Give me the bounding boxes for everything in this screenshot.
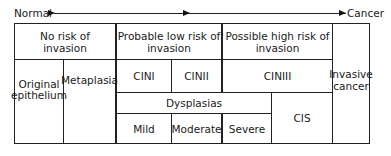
header-probable-low-risk: Probable low risk of invasion (117, 24, 221, 59)
arrowhead-icon (183, 10, 190, 16)
border-bottom (14, 143, 370, 144)
cell-dysplasias: Dysplasias (117, 93, 271, 113)
arrowhead-icon (339, 10, 346, 16)
axis-line (54, 13, 346, 14)
header-no-risk: No risk of invasion (30, 24, 100, 59)
cell-cis: CIS (272, 93, 332, 143)
cell-cin1: CINI (117, 60, 171, 92)
cell-invasive-cancer: Invasive cancer (333, 60, 369, 100)
cell-moderate: Moderate (172, 114, 221, 143)
cell-cin3: CINIII (223, 60, 332, 92)
cell-original-epithelium: Original epithelium (15, 60, 63, 120)
cell-severe: Severe (223, 114, 271, 143)
axis-start-label: Normal (14, 7, 52, 19)
axis-end-label: Cancer (347, 7, 384, 19)
cell-mild: Mild (117, 114, 171, 143)
cell-metaplasia: Metaplasia (64, 60, 115, 100)
header-possible-high-risk: Possible high risk of invasion (223, 24, 332, 59)
cell-cin2: CINII (172, 60, 221, 92)
